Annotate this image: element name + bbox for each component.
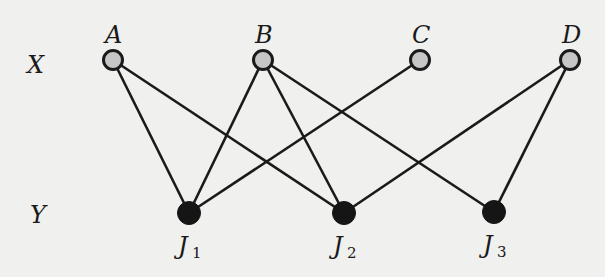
node-label-sub-j3: 3 [497,243,507,261]
node-label-a: A [103,21,122,49]
node-label-b: B [254,21,273,49]
node-c [411,51,430,70]
bipartite-graph: ABCDJ1J2J3XY [0,0,605,277]
partition-label-x: X [25,51,45,79]
node-j3 [483,201,506,224]
partition-label-y: Y [30,201,48,229]
node-label-d: D [561,21,581,49]
node-label-j3: J [478,231,494,259]
node-label-j1: J [173,232,189,260]
node-j1 [178,202,201,225]
nodes [104,51,580,225]
node-label-c: C [412,21,430,49]
node-a [104,51,123,70]
node-label-j2: J [328,232,344,260]
node-j2 [333,202,356,225]
node-label-sub-j1: 1 [192,244,202,262]
edge-d-j3 [494,60,570,212]
edge-a-j1 [113,60,189,213]
edge-c-j1 [189,60,420,213]
edge-a-j2 [113,60,344,213]
node-d [561,51,580,70]
node-b [254,51,273,70]
edges [113,60,570,213]
node-label-sub-j2: 2 [347,244,357,262]
